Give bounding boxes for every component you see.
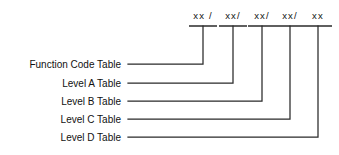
connector-level-c-table — [128, 26, 290, 119]
code-segment-0: xx / — [193, 10, 213, 21]
connectors-group — [128, 26, 318, 137]
row-label-level-b-table: Level B Table — [61, 96, 121, 107]
code-structure-diagram: xx / xx/ xx/ xx/ xx Function Code Table … — [0, 0, 339, 155]
connector-function-code-table — [128, 26, 203, 64]
code-segment-2: xx/ — [254, 10, 270, 21]
row-labels-group: Function Code Table Level A Table Level … — [29, 59, 121, 143]
row-label-function-code-table: Function Code Table — [29, 59, 121, 70]
code-segment-3: xx/ — [282, 10, 298, 21]
row-label-level-d-table: Level D Table — [61, 132, 122, 143]
connector-level-a-table — [128, 26, 233, 83]
row-label-level-a-table: Level A Table — [62, 78, 121, 89]
row-label-level-c-table: Level C Table — [61, 114, 122, 125]
code-segment-1: xx/ — [225, 10, 241, 21]
code-segments-group: xx / xx/ xx/ xx/ xx — [193, 10, 324, 21]
diagram-canvas: xx / xx/ xx/ xx/ xx Function Code Table … — [0, 0, 339, 155]
code-segment-4: xx — [312, 10, 324, 21]
